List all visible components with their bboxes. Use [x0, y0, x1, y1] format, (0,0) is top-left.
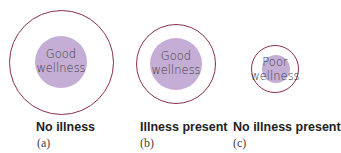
- wellness-text-a: Good wellness: [31, 47, 91, 75]
- wellness-level: Good: [146, 49, 206, 63]
- wellness-word: wellness: [146, 63, 206, 77]
- panel-sub-a: (a): [37, 136, 50, 151]
- panel-label-c: No illness present: [233, 120, 341, 134]
- panel-sub-b: (b): [140, 136, 154, 151]
- wellness-text-b: Good wellness: [146, 49, 206, 77]
- panel-label-a: No illness: [36, 120, 95, 134]
- wellness-level: Poor: [245, 55, 305, 69]
- panel-sub-c: (c): [233, 136, 246, 151]
- wellness-word: wellness: [31, 61, 91, 75]
- panel-label-b: Illness present: [140, 120, 228, 134]
- wellness-level: Good: [31, 47, 91, 61]
- wellness-text-c: Poor wellness: [245, 55, 305, 83]
- wellness-word: wellness: [245, 69, 305, 83]
